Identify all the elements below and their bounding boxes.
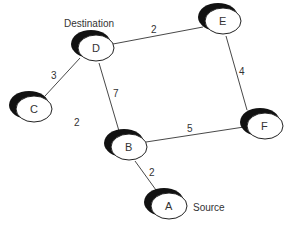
graph-diagram: 2 3 7 4 5 2 2 D Destination E C B F A So bbox=[0, 0, 287, 230]
edge-d-e bbox=[113, 27, 203, 44]
edge-weight-d-e: 2 bbox=[151, 24, 157, 35]
edge-weight-e-f: 4 bbox=[239, 66, 245, 77]
node-f-label: F bbox=[261, 120, 268, 132]
edge-weight-b-f: 5 bbox=[187, 123, 193, 134]
node-e: E bbox=[198, 3, 241, 34]
node-d: D bbox=[71, 30, 114, 61]
stray-weight-label: 2 bbox=[74, 117, 80, 128]
node-b-label: B bbox=[125, 141, 132, 153]
destination-annotation: Destination bbox=[64, 18, 114, 29]
node-c-label: C bbox=[30, 103, 38, 115]
node-d-label: D bbox=[92, 42, 100, 54]
edge-weight-b-a: 2 bbox=[149, 167, 155, 178]
edge-weight-d-c: 3 bbox=[51, 70, 57, 81]
edge-b-f bbox=[146, 127, 244, 142]
node-a-label: A bbox=[165, 200, 173, 212]
node-f: F bbox=[240, 108, 283, 139]
edge-weight-d-b: 7 bbox=[113, 88, 119, 99]
node-e-label: E bbox=[219, 15, 226, 27]
node-a: A bbox=[144, 188, 187, 219]
source-annotation: Source bbox=[193, 202, 225, 213]
node-b: B bbox=[104, 129, 147, 160]
